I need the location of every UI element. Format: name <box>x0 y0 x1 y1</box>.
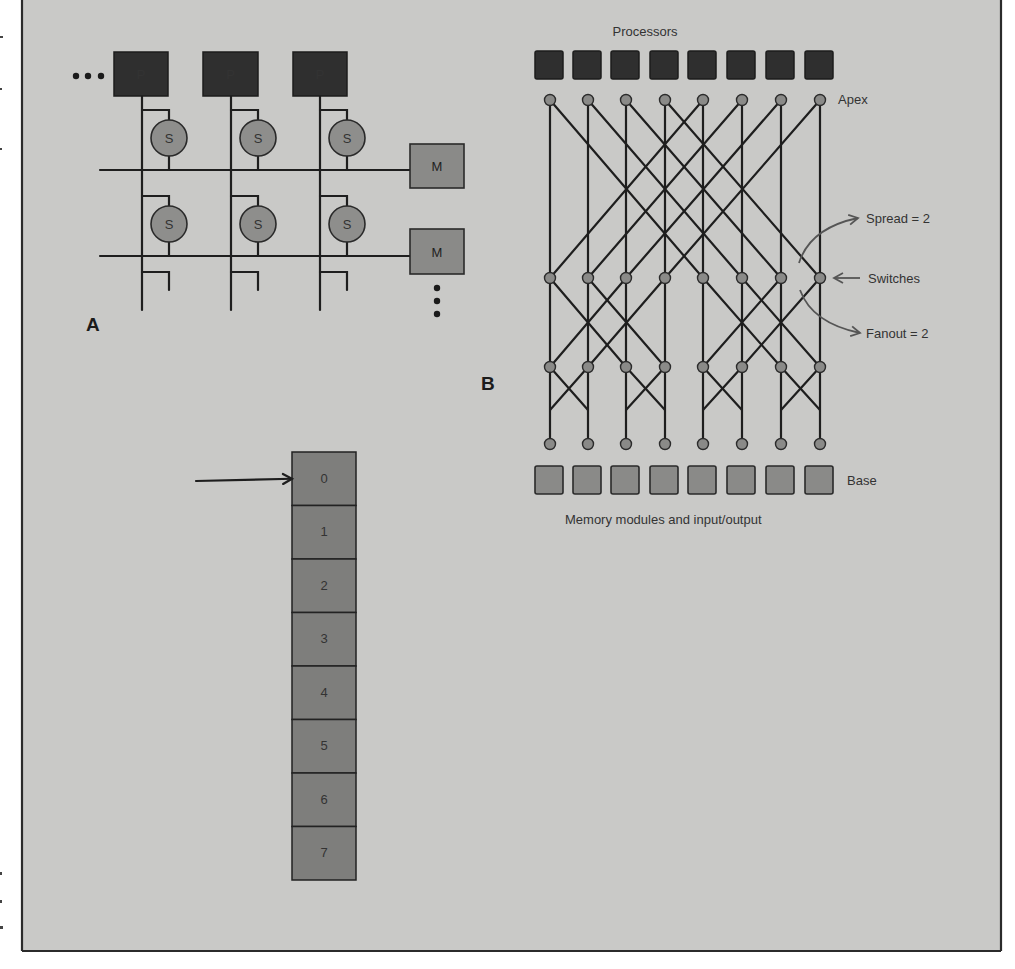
processor-square <box>688 51 716 79</box>
ellipsis-dot-icon <box>434 285 440 291</box>
ellipsis-dot-icon <box>434 311 440 317</box>
switch-label: S <box>343 217 352 232</box>
switch-node <box>545 273 556 284</box>
memory-module-square <box>688 466 716 494</box>
switch-node <box>737 439 748 450</box>
switch-label: S <box>165 131 174 146</box>
ellipsis-dot-icon <box>434 298 440 304</box>
switch-node <box>545 362 556 373</box>
switch-label: S <box>343 131 352 146</box>
memory-module-square <box>535 466 563 494</box>
processor-square <box>805 51 833 79</box>
switch-label: S <box>254 217 263 232</box>
memory-label: M <box>432 245 443 260</box>
processor-square <box>727 51 755 79</box>
processor-square <box>573 51 601 79</box>
card-label: 2 <box>320 578 327 593</box>
memory-modules-caption: Memory modules and input/output <box>565 512 762 527</box>
switch-node <box>776 273 787 284</box>
processor-label: P <box>137 67 146 82</box>
switch-node <box>621 439 632 450</box>
fanout-label: Fanout = 2 <box>866 326 929 341</box>
switch-node <box>621 362 632 373</box>
card-label: 7 <box>320 845 327 860</box>
memory-module-square <box>573 466 601 494</box>
switch-node <box>815 362 826 373</box>
switch-node <box>776 95 787 106</box>
card-label: 4 <box>320 685 327 700</box>
processor-square <box>535 51 563 79</box>
switch-node <box>583 439 594 450</box>
apex-label: Apex <box>838 92 868 107</box>
margin-marks <box>0 36 3 929</box>
switch-node <box>698 362 709 373</box>
spread-label: Spread = 2 <box>866 211 930 226</box>
processor-square <box>766 51 794 79</box>
processors-title: Processors <box>612 24 678 39</box>
switch-label: S <box>254 131 263 146</box>
switch-node <box>545 439 556 450</box>
memory-module-square <box>611 466 639 494</box>
switch-node <box>737 362 748 373</box>
switch-node <box>776 439 787 450</box>
memory-module-square <box>727 466 755 494</box>
switch-node <box>660 362 671 373</box>
base-label: Base <box>847 473 877 488</box>
switch-node <box>583 95 594 106</box>
switch-node <box>660 95 671 106</box>
card-label: 0 <box>320 471 327 486</box>
memory-module-square <box>805 466 833 494</box>
processor-square <box>650 51 678 79</box>
switch-node <box>698 273 709 284</box>
switch-node <box>815 95 826 106</box>
switch-node <box>815 439 826 450</box>
ellipsis-dot-icon <box>85 73 91 79</box>
memory-module-square <box>650 466 678 494</box>
ellipsis-dot-icon <box>98 73 104 79</box>
processor-label: P <box>226 67 235 82</box>
memory-module-square <box>766 466 794 494</box>
processor-square <box>611 51 639 79</box>
switch-node <box>660 439 671 450</box>
switch-node <box>737 273 748 284</box>
switch-node <box>737 95 748 106</box>
card-label: 3 <box>320 631 327 646</box>
interconnection-network-figure: SSPSSPSSPMMA ProcessorsApexSpread = 2Swi… <box>0 0 1015 969</box>
card-label: 5 <box>320 738 327 753</box>
switch-node <box>621 273 632 284</box>
switch-node <box>698 439 709 450</box>
switch-node <box>815 273 826 284</box>
switch-node <box>583 273 594 284</box>
card-label: 6 <box>320 792 327 807</box>
switch-node <box>621 95 632 106</box>
card-label: 1 <box>320 524 327 539</box>
switch-label: S <box>165 217 174 232</box>
switch-node <box>776 362 787 373</box>
memory-label: M <box>432 159 443 174</box>
switch-node <box>660 273 671 284</box>
processor-label: P <box>316 67 325 82</box>
switch-node <box>583 362 594 373</box>
ellipsis-dot-icon <box>73 73 79 79</box>
panel-letter-a: A <box>86 314 100 335</box>
switches-label: Switches <box>868 271 921 286</box>
switch-node <box>545 95 556 106</box>
switch-node <box>698 95 709 106</box>
panel-letter-b: B <box>481 373 495 394</box>
